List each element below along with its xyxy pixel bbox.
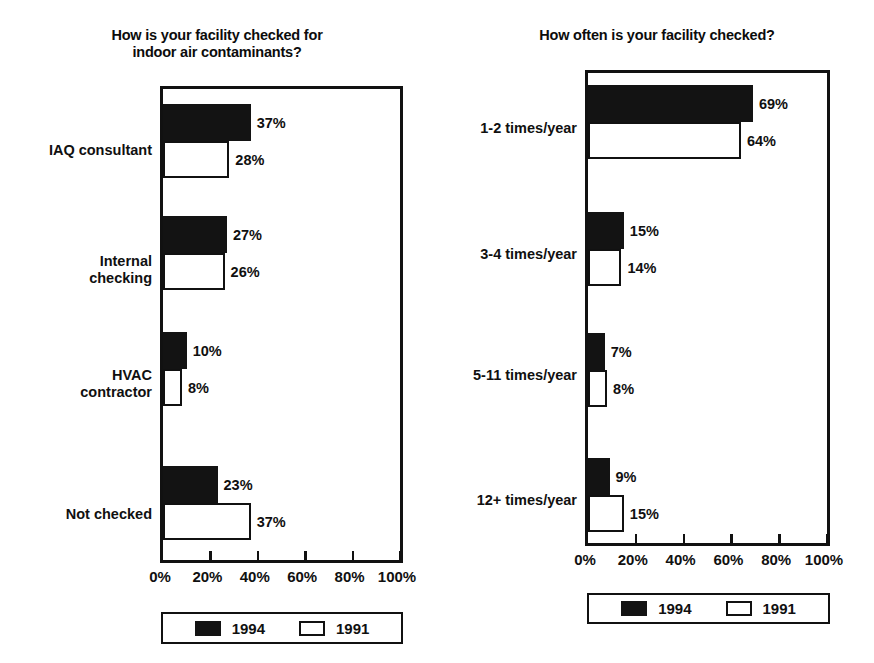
- bar-value-label: 69%: [759, 97, 788, 112]
- bar-1991: [163, 253, 225, 290]
- bar-value-label: 15%: [630, 224, 659, 239]
- bar-1994: [588, 212, 624, 249]
- category-label-iaq-consultant: IAQ consultant: [0, 142, 152, 159]
- bar-value-label: 37%: [257, 515, 286, 530]
- x-axis-tick: [778, 534, 781, 543]
- category-label-5-11-times-year: 5-11 times/year: [437, 367, 577, 384]
- x-axis-tick-label: 40%: [240, 568, 270, 586]
- x-axis-tick: [826, 534, 829, 543]
- bar-value-label: 26%: [231, 265, 260, 280]
- bar-1991: [588, 495, 624, 532]
- bar-1991: [163, 141, 229, 178]
- x-axis-tick-label: 20%: [192, 568, 222, 586]
- category-label-12-plus-times-year: 12+ times/year: [437, 492, 577, 509]
- x-axis-tick: [257, 551, 260, 560]
- bar-value-label: 8%: [188, 381, 209, 396]
- x-axis-tick: [304, 551, 307, 560]
- chart-panel-left: How is your facility checked for indoor …: [0, 0, 437, 663]
- x-axis-tick-label: 100%: [805, 551, 843, 569]
- chart-title-left: How is your facility checked for indoor …: [22, 27, 412, 61]
- legend-right: 1994 1991: [587, 593, 830, 624]
- bar-value-label: 27%: [233, 228, 262, 243]
- bar-value-label: 37%: [257, 116, 286, 131]
- legend-left: 1994 1991: [161, 612, 403, 644]
- bar-1994: [163, 104, 251, 141]
- legend-entry-1994: 1994: [195, 621, 265, 636]
- legend-entry-1991: 1991: [726, 601, 796, 616]
- legend-swatch-dark-icon: [195, 621, 221, 636]
- x-axis-tick-label: 0%: [574, 551, 596, 569]
- x-axis-tick-label: 60%: [713, 551, 743, 569]
- category-label-1-2-times-year: 1-2 times/year: [437, 120, 577, 137]
- x-axis-tick-label: 40%: [666, 551, 696, 569]
- x-axis-tick-label: 100%: [378, 568, 416, 586]
- legend-swatch-dark-icon: [621, 601, 647, 616]
- bar-1991: [588, 122, 741, 159]
- plot-area-right: 69%64%15%14%7%8%9%15%: [585, 70, 830, 546]
- x-axis-tick-labels-right: 0%20%40%60%80%100%: [585, 551, 830, 571]
- chart-title-right: How often is your facility checked?: [457, 27, 857, 44]
- bar-1991: [163, 503, 251, 540]
- legend-label-1991: 1991: [336, 621, 369, 636]
- bar-1991: [588, 249, 621, 286]
- bar-1994: [588, 458, 610, 495]
- bar-1994: [588, 85, 753, 122]
- category-label-not-checked: Not checked: [0, 506, 152, 523]
- bar-value-label: 8%: [613, 382, 634, 397]
- legend-label-1994: 1994: [658, 601, 691, 616]
- legend-entry-1994: 1994: [621, 601, 691, 616]
- bar-value-label: 7%: [611, 345, 632, 360]
- bar-1994: [163, 466, 218, 503]
- legend-label-1994: 1994: [232, 621, 265, 636]
- x-axis-tick: [730, 534, 733, 543]
- bar-1991: [163, 369, 182, 406]
- legend-swatch-light-icon: [726, 601, 752, 616]
- x-axis-tick: [635, 534, 638, 543]
- x-axis-tick-labels-left: 0%20%40%60%80%100%: [160, 568, 403, 588]
- bar-1994: [588, 333, 605, 370]
- x-axis-tick: [399, 551, 402, 560]
- bar-value-label: 28%: [235, 153, 264, 168]
- x-axis-tick-label: 80%: [761, 551, 791, 569]
- plot-area-left: 37%28%27%26%10%8%23%37%: [160, 86, 403, 563]
- bar-value-label: 23%: [224, 478, 253, 493]
- legend-entry-1991: 1991: [299, 621, 369, 636]
- bar-value-label: 10%: [193, 344, 222, 359]
- chart-page: How is your facility checked for indoor …: [0, 0, 874, 663]
- chart-panel-right: How often is your facility checked? 69%6…: [437, 0, 874, 663]
- bar-value-label: 9%: [616, 470, 637, 485]
- x-axis-tick: [352, 551, 355, 560]
- x-axis-tick-label: 0%: [149, 568, 171, 586]
- category-label-3-4-times-year: 3-4 times/year: [437, 246, 577, 263]
- bar-1994: [163, 216, 227, 253]
- category-label-internal-checking: Internal checking: [0, 253, 152, 287]
- x-axis-tick-label: 20%: [618, 551, 648, 569]
- x-axis-tick: [209, 551, 212, 560]
- legend-label-1991: 1991: [763, 601, 796, 616]
- bar-value-label: 15%: [630, 507, 659, 522]
- x-axis-tick-label: 60%: [287, 568, 317, 586]
- bar-value-label: 64%: [747, 134, 776, 149]
- bar-value-label: 14%: [627, 261, 656, 276]
- bar-1991: [588, 370, 607, 407]
- x-axis-tick: [683, 534, 686, 543]
- category-label-hvac-contractor: HVAC contractor: [0, 367, 152, 401]
- x-axis-tick-label: 80%: [335, 568, 365, 586]
- bar-1994: [163, 332, 187, 369]
- legend-swatch-light-icon: [299, 621, 325, 636]
